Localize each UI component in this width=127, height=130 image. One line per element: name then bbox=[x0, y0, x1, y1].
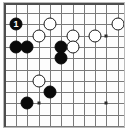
stone-white[interactable] bbox=[32, 74, 45, 87]
stone-move-number bbox=[44, 87, 55, 98]
stone-move-number: 1 bbox=[11, 19, 22, 30]
stone-white[interactable] bbox=[111, 18, 124, 31]
stone-move-number bbox=[22, 98, 33, 109]
stone-white[interactable] bbox=[89, 29, 102, 42]
stone-move-number bbox=[112, 19, 123, 30]
grid-line-vertical bbox=[73, 3, 74, 127]
stone-move-number bbox=[44, 19, 55, 30]
stone-black[interactable] bbox=[21, 40, 34, 53]
stone-white[interactable] bbox=[43, 18, 56, 31]
stone-black[interactable] bbox=[43, 86, 56, 99]
go-board-diagram: 1 bbox=[0, 0, 127, 130]
stone-white[interactable] bbox=[66, 40, 79, 53]
grid-line-vertical bbox=[84, 3, 85, 127]
stone-black-move-1[interactable]: 1 bbox=[10, 18, 23, 31]
stone-black[interactable] bbox=[55, 52, 68, 65]
stone-move-number bbox=[33, 30, 44, 41]
grid-line-vertical bbox=[106, 3, 107, 127]
hoshi-point bbox=[37, 102, 40, 105]
board-edge-top bbox=[4, 3, 125, 5]
go-board-grid-area[interactable]: 1 bbox=[4, 3, 125, 127]
stone-move-number bbox=[22, 41, 33, 52]
stone-move-number bbox=[67, 41, 78, 52]
grid-line-vertical bbox=[95, 3, 96, 127]
hoshi-point bbox=[105, 34, 108, 37]
hoshi-point bbox=[105, 102, 108, 105]
grid-line-vertical bbox=[39, 3, 40, 127]
stone-white[interactable] bbox=[32, 29, 45, 42]
stone-move-number bbox=[56, 53, 67, 64]
stone-move-number bbox=[33, 75, 44, 86]
stone-move-number bbox=[90, 30, 101, 41]
stone-black[interactable] bbox=[21, 97, 34, 110]
grid-line-vertical bbox=[61, 3, 62, 127]
board-edge-left bbox=[4, 3, 6, 127]
